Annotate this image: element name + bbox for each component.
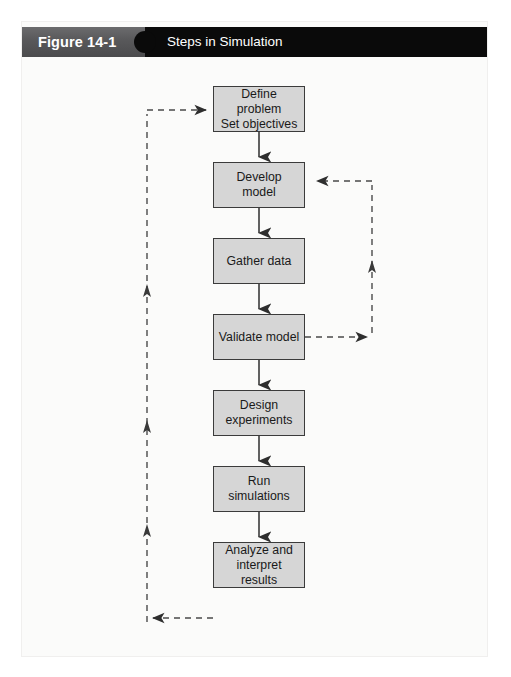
flow-node-label: Gather data <box>223 254 296 269</box>
flowchart: Define problem Set objectives Develop mo… <box>22 22 487 656</box>
flow-node-label: Define problem Set objectives <box>214 87 304 132</box>
flow-node-analyze-interpret-results[interactable]: Analyze and interpret results <box>213 542 305 588</box>
feedback-right-arrowheads <box>368 260 376 273</box>
figure-panel: Figure 14-1 Steps in Simulation <box>22 22 487 656</box>
flow-node-label: Develop model <box>214 170 304 200</box>
flow-node-label: Analyze and interpret results <box>214 543 304 588</box>
flow-node-validate-model[interactable]: Validate model <box>213 314 305 360</box>
flow-node-design-experiments[interactable]: Design experiments <box>213 390 305 436</box>
flow-node-define-problem[interactable]: Define problem Set objectives <box>213 86 305 132</box>
flow-node-label: Run simulations <box>214 474 304 504</box>
flow-node-gather-data[interactable]: Gather data <box>213 238 305 284</box>
flow-node-label: Design experiments <box>222 398 297 428</box>
flow-node-develop-model[interactable]: Develop model <box>213 162 305 208</box>
flow-node-run-simulations[interactable]: Run simulations <box>213 466 305 512</box>
flow-node-label: Validate model <box>215 330 303 345</box>
